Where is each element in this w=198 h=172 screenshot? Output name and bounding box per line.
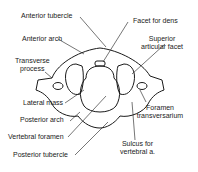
label-posterior-arch: Posterior arch	[20, 116, 64, 124]
label-foramen-transversarium-line2: transversarium	[134, 112, 186, 120]
label-foramen-transversarium-line1: Foramen	[134, 104, 186, 112]
label-transverse-process: Transverse process	[15, 57, 50, 73]
label-posterior-tubercle: Posterior tubercle	[13, 151, 68, 159]
label-anterior-arch: Anterior arch	[22, 35, 62, 43]
left-foramen-transversarium	[53, 83, 63, 90]
atlas-illustration	[0, 0, 198, 172]
label-sulcus-line2: vertebral a.	[115, 148, 160, 156]
label-transverse-process-line1: Transverse	[15, 57, 50, 65]
label-superior-articular-facet-line1: Superior	[136, 35, 188, 43]
right-foramen-transversarium	[137, 83, 147, 90]
label-transverse-process-line2: process	[15, 65, 50, 73]
label-superior-articular-facet-line2: articular facet	[136, 43, 188, 51]
label-sulcus-line1: Sulcus for	[115, 140, 160, 148]
label-facet-for-dens: Facet for dens	[133, 17, 178, 25]
label-anterior-tubercle: Anterior tubercle	[21, 12, 72, 20]
vertebral-foramen-shape	[80, 66, 119, 112]
label-superior-articular-facet: Superior articular facet	[136, 35, 188, 51]
label-vertebral-foramen: Vertebral foramen	[8, 133, 64, 141]
label-foramen-transversarium: Foramen transversarium	[134, 104, 186, 120]
label-sulcus-for-vertebral-artery: Sulcus for vertebral a.	[115, 140, 160, 156]
label-lateral-mass: Lateral mass	[23, 99, 63, 107]
